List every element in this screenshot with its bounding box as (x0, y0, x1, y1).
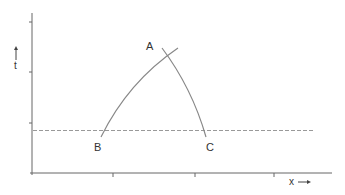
t-axis-label: t (14, 61, 17, 71)
curve-b-to-a (101, 48, 178, 137)
label-b: B (94, 142, 101, 153)
diagram-canvas (0, 0, 345, 195)
x-arrow-head-icon (307, 180, 311, 184)
label-c: C (206, 142, 214, 153)
x-axis-label: x (289, 177, 294, 187)
t-arrow-head-icon (14, 46, 18, 50)
label-a: A (146, 41, 153, 52)
curve-a-to-c (162, 48, 206, 137)
